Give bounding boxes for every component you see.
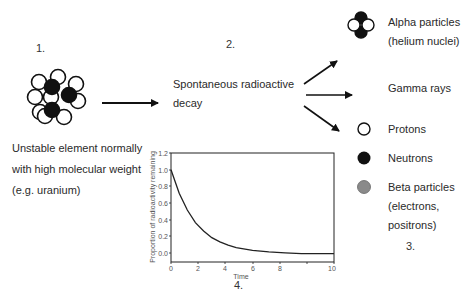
alpha-particle-icon: [348, 12, 374, 38]
xtick-2: 2: [196, 265, 200, 272]
ytick-0.8: 0.8: [158, 183, 168, 190]
arrow-to-beta: [304, 106, 339, 131]
xtick-10: 10: [328, 265, 336, 272]
ytick-1.0: 1.0: [158, 167, 168, 174]
nucleus-icon: [28, 70, 86, 125]
proton-icon: [358, 123, 370, 135]
beta-particle-icon: [358, 181, 371, 194]
xtick-4: 4: [223, 265, 227, 272]
arrow-to-alpha: [304, 61, 337, 84]
x-axis-label: Time: [233, 273, 248, 280]
chart-frame: [171, 153, 334, 262]
neutron-icon: [358, 152, 371, 165]
diagram-graphics: 1.2 1.0 0.8 0.6 0.4 0.2 0.0 0 2 4 6 8 10…: [0, 0, 468, 294]
decay-curve: [171, 170, 334, 254]
y-axis-label: Proportion of radioactivity remaining: [149, 151, 157, 263]
ytick-0.6: 0.6: [158, 200, 168, 207]
decay-chart: 1.2 1.0 0.8 0.6 0.4 0.2 0.0 0 2 4 6 8 10…: [149, 150, 336, 281]
xtick-6: 6: [251, 265, 255, 272]
xtick-8: 8: [278, 265, 282, 272]
ytick-0.2: 0.2: [158, 233, 168, 240]
ytick-1.2: 1.2: [158, 150, 168, 157]
xtick-0: 0: [169, 265, 173, 272]
ytick-0.4: 0.4: [158, 217, 168, 224]
ytick-0.0: 0.0: [158, 250, 168, 257]
